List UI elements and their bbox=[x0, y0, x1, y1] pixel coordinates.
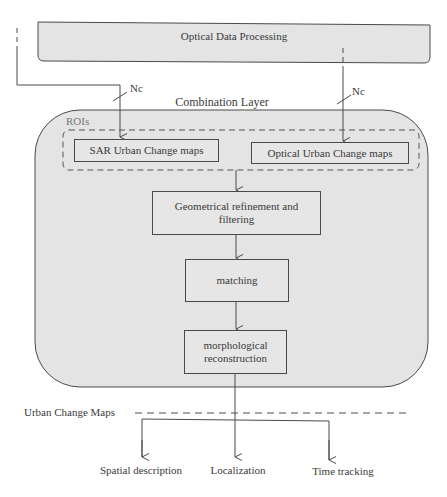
matching-label: matching bbox=[217, 274, 258, 287]
rois-label: ROIs bbox=[66, 115, 89, 128]
diagram-canvas bbox=[0, 0, 447, 497]
geometrical-refinement-box: Geometrical refinement and filtering bbox=[152, 191, 321, 235]
sar-nc-label: Nc bbox=[130, 82, 143, 95]
sar-urban-change-maps-label: SAR Urban Change maps bbox=[90, 144, 204, 157]
optical-urban-change-maps-box: Optical Urban Change maps bbox=[251, 142, 409, 164]
morphological-reconstruction-box: morphological reconstruction bbox=[184, 330, 287, 374]
optical-nc-slash bbox=[337, 95, 351, 104]
localization-label: Localization bbox=[211, 464, 266, 477]
matching-box: matching bbox=[185, 259, 289, 302]
optical-urban-change-maps-label: Optical Urban Change maps bbox=[268, 147, 393, 160]
combination-layer-title: Combination Layer bbox=[175, 96, 269, 109]
sar-urban-change-maps-box: SAR Urban Change maps bbox=[74, 139, 219, 162]
urban-change-maps-label: Urban Change Maps bbox=[24, 406, 115, 419]
optical-data-processing-label: Optical Data Processing bbox=[181, 30, 287, 43]
optical-nc-label: Nc bbox=[352, 85, 365, 98]
spatial-description-label: Spatial description bbox=[100, 464, 182, 477]
morphological-reconstruction-label: morphological reconstruction bbox=[191, 339, 280, 365]
geometrical-refinement-label: Geometrical refinement and filtering bbox=[171, 200, 302, 226]
time-tracking-label: Time tracking bbox=[312, 465, 374, 478]
